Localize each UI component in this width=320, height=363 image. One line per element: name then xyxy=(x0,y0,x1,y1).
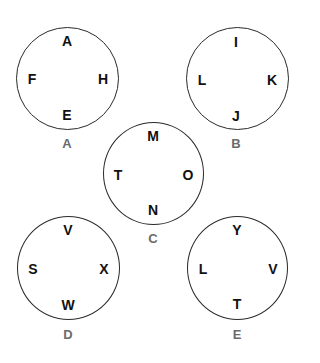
circle-a-label: A xyxy=(62,137,71,150)
circle-b-label: B xyxy=(231,137,240,150)
circle-c-right-letter: O xyxy=(183,168,194,182)
circle-d-right-letter: X xyxy=(99,262,108,276)
circle-c-top-letter: M xyxy=(147,129,159,143)
circle-e-bottom-letter: T xyxy=(233,297,242,311)
circle-d-top-letter: V xyxy=(63,223,72,237)
circle-b-top-letter: I xyxy=(234,35,238,49)
circle-d-left-letter: S xyxy=(28,262,37,276)
circle-a-bottom-letter: E xyxy=(62,108,71,122)
circle-e-label: E xyxy=(233,328,242,341)
circle-b-bottom-letter: J xyxy=(232,109,240,123)
circle-a-top-letter: A xyxy=(62,34,72,48)
circle-c-label: C xyxy=(148,232,157,245)
circle-e-left-letter: L xyxy=(199,262,208,276)
circle-e-right-letter: V xyxy=(268,262,277,276)
circle-c-left-letter: T xyxy=(114,168,123,182)
circle-b-left-letter: L xyxy=(198,73,207,87)
circle-a-left-letter: F xyxy=(28,72,37,86)
circle-a-right-letter: H xyxy=(98,72,108,86)
circle-d-label: D xyxy=(63,328,72,341)
circle-d-bottom-letter: W xyxy=(61,298,74,312)
circle-c-bottom-letter: N xyxy=(148,203,158,217)
circle-e-top-letter: Y xyxy=(232,223,241,237)
circle-b-right-letter: K xyxy=(267,73,277,87)
